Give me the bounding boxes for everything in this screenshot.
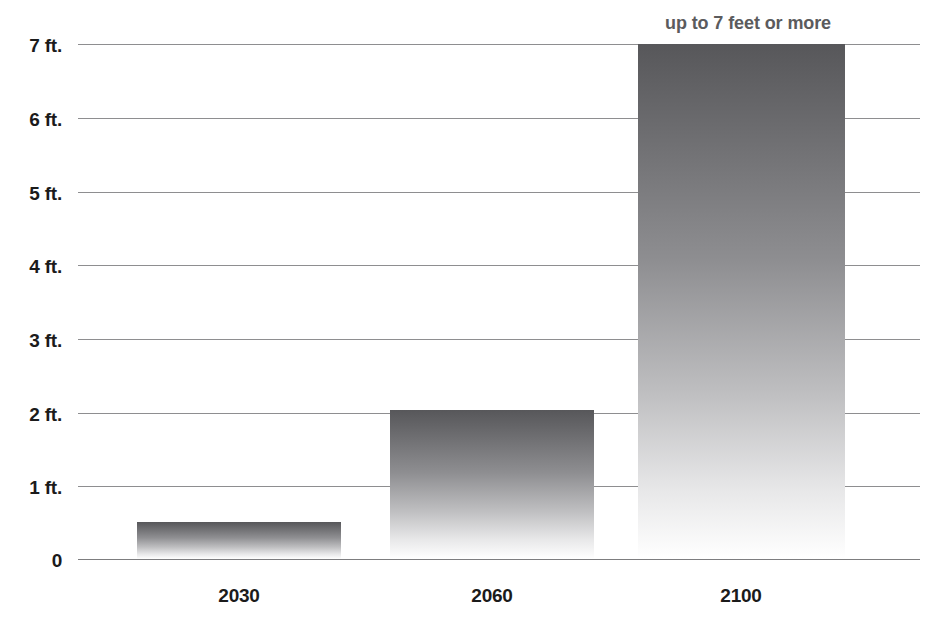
plot-area: 7 ft. 6 ft. 5 ft. 4 ft. 3 ft. 2 ft. 1 ft…: [0, 0, 938, 640]
bar-2030-fill: [137, 522, 341, 559]
y-axis-label-2ft: 2 ft.: [0, 405, 62, 424]
y-axis-label-5ft: 5 ft.: [0, 184, 62, 203]
x-axis-label-2100: 2100: [720, 586, 761, 605]
bar-2060-fill: [390, 410, 594, 559]
y-axis-label-6ft: 6 ft.: [0, 110, 62, 129]
bar-2060[interactable]: [390, 410, 594, 559]
gridline-baseline-0: [78, 559, 920, 560]
bar-2100-fill: [638, 44, 845, 559]
y-axis-label-0: 0: [0, 551, 62, 570]
y-axis-label-4ft: 4 ft.: [0, 257, 62, 276]
chart-container: 7 ft. 6 ft. 5 ft. 4 ft. 3 ft. 2 ft. 1 ft…: [0, 0, 938, 640]
bar-2030[interactable]: [137, 522, 341, 559]
bar-2100-annotation: up to 7 feet or more: [665, 14, 831, 32]
x-axis-label-2030: 2030: [218, 586, 259, 605]
bar-2100[interactable]: [638, 44, 845, 559]
y-axis-label-7ft: 7 ft.: [0, 36, 62, 55]
y-axis-label-1ft: 1 ft.: [0, 478, 62, 497]
y-axis-label-3ft: 3 ft.: [0, 331, 62, 350]
x-axis-label-2060: 2060: [471, 586, 512, 605]
